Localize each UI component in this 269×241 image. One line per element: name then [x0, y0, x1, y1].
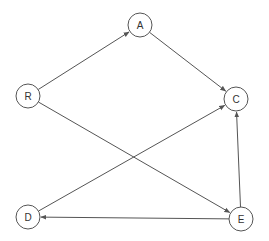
- node-e[interactable]: E: [229, 207, 253, 231]
- edge-a-to-c: [150, 32, 226, 91]
- edge-r-to-a: [38, 32, 129, 90]
- edge-e-to-c: [237, 112, 241, 207]
- node-a[interactable]: A: [128, 13, 152, 37]
- edges-layer: [38, 32, 240, 219]
- node-d[interactable]: D: [16, 205, 40, 229]
- node-d-label: D: [24, 212, 31, 223]
- node-c[interactable]: C: [224, 87, 248, 111]
- node-r[interactable]: R: [16, 84, 40, 108]
- graph-canvas: R A C D E: [0, 0, 269, 241]
- node-r-label: R: [24, 91, 31, 102]
- edge-e-to-d: [41, 217, 229, 219]
- nodes-layer: R A C D E: [16, 13, 253, 231]
- edge-d-to-c: [38, 105, 224, 211]
- node-a-label: A: [137, 20, 144, 31]
- node-c-label: C: [232, 94, 239, 105]
- node-e-label: E: [238, 214, 245, 225]
